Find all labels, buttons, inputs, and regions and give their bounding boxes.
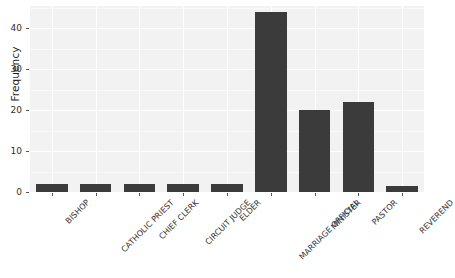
x-axis-tick-label: MINISTER bbox=[329, 198, 362, 231]
x-axis-tick-label: BISHOP bbox=[64, 198, 92, 226]
y-axis-tick-label: 30 bbox=[0, 65, 22, 74]
y-axis-tick-mark bbox=[26, 192, 29, 193]
bar bbox=[299, 110, 331, 192]
gridline-vertical-major bbox=[52, 6, 53, 192]
bar bbox=[343, 102, 375, 192]
y-axis-tick-label: 40 bbox=[0, 24, 22, 33]
plot-panel bbox=[30, 6, 424, 192]
gridline-vertical-major bbox=[183, 6, 184, 192]
x-axis-tick-mark bbox=[315, 193, 316, 196]
bar bbox=[80, 184, 112, 192]
x-axis-tick-mark bbox=[139, 193, 140, 196]
x-axis-tick-mark bbox=[96, 193, 97, 196]
x-axis-tick-mark bbox=[52, 193, 53, 196]
x-axis-tick-label: CIRCUIT JUDGE bbox=[204, 198, 253, 247]
bar bbox=[124, 184, 156, 192]
y-axis-tick-mark bbox=[26, 110, 29, 111]
x-axis-tick-mark bbox=[402, 193, 403, 196]
gridline-vertical-major bbox=[96, 6, 97, 192]
bar bbox=[255, 12, 287, 192]
y-axis-tick-mark bbox=[26, 69, 29, 70]
x-axis-tick-mark bbox=[183, 193, 184, 196]
gridline-vertical-major bbox=[139, 6, 140, 192]
y-axis-tick-label: 10 bbox=[0, 147, 22, 156]
gridline-vertical-major bbox=[402, 6, 403, 192]
gridline-vertical-major bbox=[227, 6, 228, 192]
bar bbox=[211, 184, 243, 192]
x-axis-tick-mark bbox=[227, 193, 228, 196]
x-axis-tick-mark bbox=[358, 193, 359, 196]
y-axis-tick-mark bbox=[26, 151, 29, 152]
bar bbox=[386, 186, 418, 192]
x-axis-tick-label: PASTOR bbox=[371, 198, 400, 227]
x-axis-tick-mark bbox=[271, 193, 272, 196]
bar bbox=[167, 184, 199, 192]
y-axis-tick-mark bbox=[26, 28, 29, 29]
y-axis-tick-label: 20 bbox=[0, 106, 22, 115]
x-axis-tick-label: REVEREND bbox=[418, 198, 455, 235]
bar bbox=[36, 184, 68, 192]
y-axis-tick-label: 0 bbox=[0, 188, 22, 197]
